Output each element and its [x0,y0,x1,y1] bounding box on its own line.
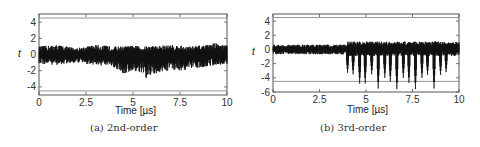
x-tick-label: 7.5 [173,97,187,108]
y-tick-label: 2 [30,33,36,44]
caption-a: (a) 2nd-order [90,122,157,133]
y-tick-label: 2 [264,30,270,41]
data-line [39,43,227,78]
x-axis-label-b: Time [µs] [347,104,388,115]
x-tick-label: 7.5 [406,94,420,105]
plot-area-b: 420-2-4-602.557.510 [240,0,480,110]
y-tick-label: 4 [264,16,270,27]
x-tick-label: 2.5 [79,97,93,108]
x-tick-label: 10 [221,97,233,108]
data-line [273,42,459,90]
y-tick-label: -2 [27,65,36,76]
x-tick-label: 0 [270,94,276,105]
y-tick-label: 4 [30,17,36,28]
y-tick-label: -2 [261,58,270,69]
y-tick-label: 0 [30,49,36,60]
chart-panel-a: 420-2-402.557.510 t Time [µs] (a) 2nd-or… [0,0,240,147]
x-tick-label: 10 [453,94,465,105]
y-tick-label: -6 [261,87,270,98]
x-tick-label: 0 [36,97,42,108]
plot-area-a: 420-2-402.557.510 [0,0,240,110]
chart-panel-b: 420-2-4-602.557.510 t Time [µs] (b) 3rd-… [240,0,480,147]
y-tick-label: 0 [264,44,270,55]
y-axis-label-b: t [252,46,255,57]
y-tick-label: -4 [27,81,36,92]
x-tick-label: 2.5 [313,94,327,105]
caption-b: (b) 3rd-order [320,122,386,133]
y-tick-label: -4 [261,72,270,83]
y-axis-label-a: t [18,48,21,59]
x-axis-label-a: Time [µs] [115,105,156,116]
